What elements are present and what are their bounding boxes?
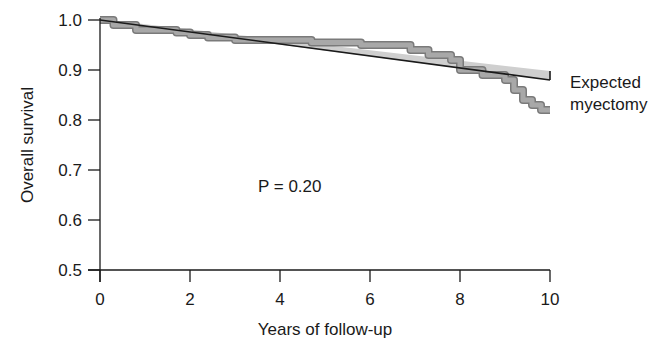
y-tick-label: 0.5 <box>58 261 82 280</box>
x-tick-label: 10 <box>541 290 560 309</box>
y-tick-label: 0.6 <box>58 211 82 230</box>
x-tick-label: 2 <box>185 290 194 309</box>
legend-label-myectomy: myectomy <box>570 95 648 114</box>
x-tick-label: 0 <box>95 290 104 309</box>
y-tick-label: 0.7 <box>58 161 82 180</box>
axes <box>88 18 550 282</box>
y-axis-title: Overall survival <box>18 87 37 203</box>
p-value-annotation: P = 0.20 <box>258 177 322 196</box>
x-axis-title: Years of follow-up <box>258 320 393 339</box>
legend-label-expected: Expected <box>570 73 641 92</box>
y-tick-label: 0.9 <box>58 61 82 80</box>
tick-labels: 0.50.60.70.80.91.00246810 <box>58 11 559 309</box>
y-tick-label: 0.8 <box>58 111 82 130</box>
expected-line <box>100 20 550 80</box>
x-tick-label: 4 <box>275 290 284 309</box>
survival-chart: 0.50.60.70.80.91.00246810 Years of follo… <box>0 0 666 355</box>
x-tick-label: 8 <box>455 290 464 309</box>
x-tick-label: 6 <box>365 290 374 309</box>
y-tick-label: 1.0 <box>58 11 82 30</box>
